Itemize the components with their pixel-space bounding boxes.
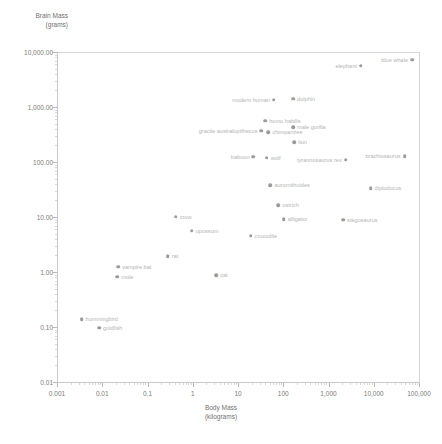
- data-point[interactable]: [265, 156, 269, 160]
- data-point-label: male gorilla: [297, 124, 326, 130]
- x-axis-minor-tick: [236, 383, 237, 385]
- data-point[interactable]: [410, 58, 414, 62]
- y-axis-tick-label: 10,000.00: [24, 49, 53, 56]
- y-axis-minor-tick: [55, 229, 57, 230]
- data-point[interactable]: [249, 234, 253, 238]
- data-point-label: gracile australopithecus: [199, 128, 258, 134]
- x-axis-minor-tick: [220, 383, 221, 385]
- x-axis-minor-tick: [140, 383, 141, 385]
- y-axis-minor-tick: [55, 356, 57, 357]
- data-point[interactable]: [252, 155, 256, 159]
- x-axis-minor-tick: [401, 383, 402, 385]
- x-axis-minor-tick: [71, 383, 72, 385]
- x-axis-tick-label: 10,000: [364, 390, 384, 397]
- data-point-label: crow: [180, 214, 192, 220]
- data-point[interactable]: [282, 217, 286, 221]
- x-axis-minor-tick: [260, 383, 261, 385]
- data-point[interactable]: [341, 218, 345, 222]
- data-point[interactable]: [214, 273, 218, 277]
- x-axis-tick-label: 0.001: [49, 390, 65, 397]
- y-axis-minor-tick: [55, 336, 57, 337]
- y-axis-minor-tick: [55, 165, 57, 166]
- y-axis-minor-tick: [55, 116, 57, 117]
- data-point-label: tyrannosaurus rex: [297, 157, 342, 163]
- y-axis-minor-tick: [55, 110, 57, 111]
- data-point[interactable]: [260, 129, 264, 133]
- y-axis-minor-tick: [55, 289, 57, 290]
- data-point[interactable]: [291, 97, 295, 101]
- y-axis-minor-tick: [55, 239, 57, 240]
- data-point-label: rat: [172, 253, 179, 259]
- x-axis-minor-tick: [369, 383, 370, 385]
- x-axis-minor-tick: [405, 383, 406, 385]
- data-point[interactable]: [359, 64, 363, 68]
- x-axis-minor-tick: [342, 383, 343, 385]
- y-axis-tick-label: 1,000.00: [28, 104, 53, 111]
- y-axis-tick-label: 0.10: [40, 324, 53, 331]
- x-axis-minor-tick: [234, 383, 235, 385]
- y-axis-minor-tick: [55, 112, 57, 113]
- y-axis-minor-tick: [55, 284, 57, 285]
- data-point[interactable]: [267, 130, 271, 134]
- y-axis-minor-tick: [55, 294, 57, 295]
- x-axis-minor-tick: [92, 383, 93, 385]
- x-axis-minor-tick: [417, 383, 418, 385]
- x-axis-tick-mark: [238, 383, 239, 387]
- data-point-label: alligator: [288, 216, 308, 222]
- data-point[interactable]: [292, 140, 296, 144]
- data-point[interactable]: [190, 229, 194, 233]
- data-point-label: dolphin: [297, 96, 315, 102]
- y-axis-minor-tick: [55, 136, 57, 137]
- data-point[interactable]: [269, 183, 273, 187]
- data-point[interactable]: [166, 254, 170, 258]
- data-point[interactable]: [277, 203, 281, 207]
- y-axis-minor-tick: [55, 171, 57, 172]
- data-point[interactable]: [174, 215, 178, 219]
- y-axis-minor-tick: [55, 234, 57, 235]
- y-axis-minor-tick: [55, 222, 57, 223]
- x-axis-tick-label: 10: [234, 390, 241, 397]
- x-axis-minor-tick: [231, 383, 232, 385]
- data-point-label: stegosaurus: [347, 217, 377, 223]
- data-point[interactable]: [116, 265, 120, 269]
- data-point-label: modern human: [232, 97, 270, 103]
- data-point-label: goldfish: [103, 325, 122, 331]
- y-axis-minor-tick: [55, 349, 57, 350]
- data-point-label: wolf: [271, 155, 281, 161]
- x-axis-minor-tick: [273, 383, 274, 385]
- x-axis-tick-mark: [57, 383, 58, 387]
- x-axis-tick-mark: [148, 383, 149, 387]
- data-point[interactable]: [80, 317, 84, 321]
- data-point-label: hummingbird: [86, 316, 118, 322]
- x-axis-minor-tick: [183, 383, 184, 385]
- data-point[interactable]: [369, 187, 373, 191]
- data-point[interactable]: [97, 326, 101, 330]
- x-axis-tick-label: 0.1: [143, 390, 152, 397]
- x-axis-minor-tick: [145, 383, 146, 385]
- x-axis-minor-tick: [100, 383, 101, 385]
- x-axis-minor-tick: [84, 383, 85, 385]
- x-axis-title: Body Mass (kilograms): [161, 404, 281, 421]
- y-axis-tick-label: 100.00: [33, 159, 53, 166]
- y-axis-tick-mark: [53, 52, 57, 53]
- data-point[interactable]: [263, 119, 267, 123]
- x-axis-minor-tick: [179, 383, 180, 385]
- data-point[interactable]: [291, 125, 295, 129]
- data-point-label: ostrich: [282, 202, 298, 208]
- x-axis-tick-label: 1,000: [320, 390, 336, 397]
- data-point[interactable]: [272, 98, 276, 102]
- y-axis-minor-tick: [55, 55, 57, 56]
- x-axis-minor-tick: [252, 383, 253, 385]
- x-axis-minor-tick: [186, 383, 187, 385]
- x-axis-minor-tick: [281, 383, 282, 385]
- y-axis-tick-mark: [53, 162, 57, 163]
- data-point[interactable]: [115, 275, 119, 279]
- data-point-label: baboon: [231, 154, 250, 160]
- x-axis-minor-tick: [206, 383, 207, 385]
- x-axis-minor-tick: [318, 383, 319, 385]
- data-point[interactable]: [403, 155, 407, 159]
- data-point[interactable]: [344, 158, 348, 162]
- x-axis-tick-mark: [374, 383, 375, 387]
- x-axis-minor-tick: [372, 383, 373, 385]
- x-axis-minor-tick: [228, 383, 229, 385]
